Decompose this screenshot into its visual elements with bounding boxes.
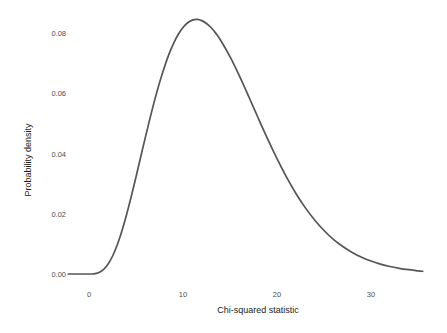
x-axis-title: Chi-squared statistic bbox=[217, 305, 299, 315]
x-tick-label: 20 bbox=[273, 290, 281, 299]
x-tick-label: 10 bbox=[179, 290, 187, 299]
x-tick-label: 30 bbox=[367, 290, 375, 299]
chi-squared-density-plot: 0.000.020.040.060.08 0102030 Probability… bbox=[0, 0, 447, 333]
y-axis-title: Probability density bbox=[23, 123, 33, 197]
plot-background bbox=[0, 0, 447, 333]
chart-container: 0.000.020.040.060.08 0102030 Probability… bbox=[0, 0, 447, 333]
x-tick-label: 0 bbox=[87, 290, 91, 299]
y-tick-label: 0.04 bbox=[51, 150, 66, 159]
y-tick-label: 0.00 bbox=[51, 270, 66, 279]
y-tick-label: 0.06 bbox=[51, 89, 66, 98]
y-tick-label: 0.02 bbox=[51, 210, 66, 219]
y-tick-label: 0.08 bbox=[51, 29, 66, 38]
